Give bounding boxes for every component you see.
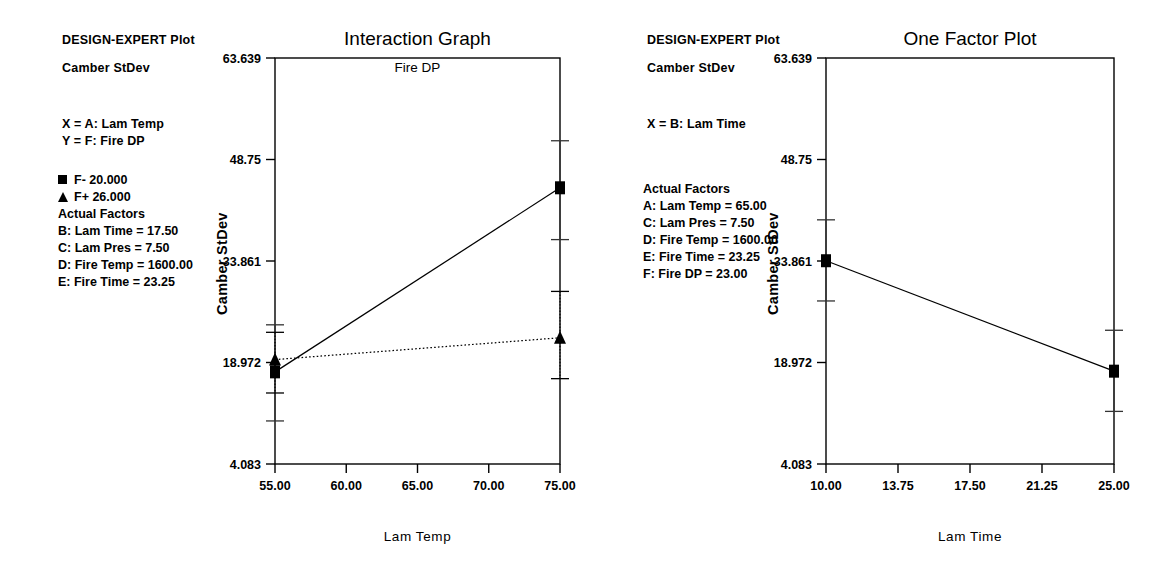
x-tick-label: 60.00 [331,479,362,493]
filled-square-marker[interactable] [821,254,831,267]
series-line [275,338,560,360]
y-tick-label: 48.75 [230,153,261,167]
x-tick-label: 75.00 [544,479,575,493]
y-tick-label: 48.75 [781,153,812,167]
plot-svg: 63.63948.7533.86118.9724.08355.0060.0065… [0,0,585,576]
y-tick-label: 63.639 [774,52,812,66]
series-line [826,261,1114,371]
x-tick-label: 25.00 [1098,479,1129,493]
series-line [275,188,560,372]
x-tick-label: 55.00 [259,479,290,493]
series-0 [266,141,569,421]
series-0 [817,220,1123,412]
plot-svg: 63.63948.7533.86118.9724.08310.0013.7517… [585,0,1170,576]
x-tick-label: 13.75 [882,479,913,493]
y-tick-label: 4.083 [230,458,261,472]
interaction-graph-panel: DESIGN-EXPERT PlotCamber StDevX = A: Lam… [0,0,585,576]
series-1 [266,291,569,393]
x-tick-label: 10.00 [810,479,841,493]
y-tick-label: 18.972 [774,356,812,370]
y-tick-label: 33.861 [774,255,812,269]
y-tick-label: 63.639 [223,52,261,66]
plot-frame [826,58,1114,464]
one-factor-plot-panel: DESIGN-EXPERT PlotCamber StDevX = B: Lam… [585,0,1170,576]
x-tick-label: 70.00 [473,479,504,493]
y-tick-label: 18.972 [223,356,261,370]
x-tick-label: 65.00 [402,479,433,493]
y-tick-label: 33.861 [223,255,261,269]
filled-square-marker[interactable] [1109,365,1119,378]
y-tick-label: 4.083 [781,458,812,472]
x-tick-label: 21.25 [1026,479,1057,493]
filled-square-marker[interactable] [555,181,565,194]
filled-triangle-marker[interactable] [554,331,566,344]
x-tick-label: 17.50 [954,479,985,493]
plot-frame [275,58,560,464]
